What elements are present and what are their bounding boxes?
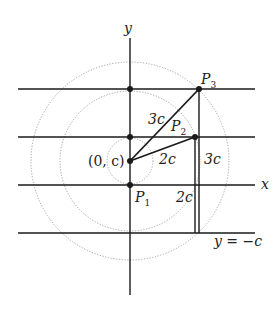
label-2c-slant: 2c [158,151,176,167]
diagram-canvas: y x P3 P2 P1 (0, c) 3c 2c 3c 2c y = −c [0,0,280,309]
P2-label: P2 [170,118,186,137]
point-center [127,158,133,164]
x-axis-label: x [261,176,269,192]
diagram-figure: y x P3 P2 P1 (0, c) 3c 2c 3c 2c y = −c [0,0,280,309]
point-middle-axis [127,134,133,140]
P3-label: P3 [200,71,216,90]
P1-label: P1 [134,189,150,208]
point-P1 [127,182,133,188]
center-label: (0, c) [88,153,125,169]
label-3c-slant: 3c [148,111,165,127]
point-P2 [192,134,198,140]
point-top-axis [127,86,133,92]
directrix-label: y = −c [213,233,262,249]
label-2c-vertical: 2c [175,189,193,205]
label-3c-vertical: 3c [204,151,221,167]
y-axis-label: y [123,20,133,36]
